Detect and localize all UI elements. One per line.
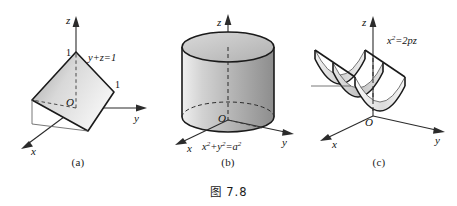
- eq-c-tail: pz: [407, 35, 417, 46]
- y-axis-label-c: y: [434, 134, 440, 146]
- eq-b-equals: =: [225, 141, 232, 152]
- z-axis-label-c: z: [361, 16, 367, 28]
- figure-container: z y x 1 1 O y+z=1 (a: [0, 0, 457, 206]
- subcaption-b: (b): [152, 156, 304, 168]
- y-axis-arrowhead-c: [433, 127, 445, 134]
- subcaption-c: (c): [303, 156, 455, 168]
- figure-caption: 图 7.8: [0, 183, 457, 199]
- eq-c-equals: =2: [395, 35, 408, 46]
- ruling-top-right-c: [365, 50, 405, 77]
- y-axis-label-a: y: [133, 112, 139, 124]
- y-axis-arrowhead-a: [136, 105, 147, 112]
- plane-face-a: [32, 52, 114, 131]
- z-axis-arrowhead-c: [370, 16, 377, 27]
- y-axis-line-c: [373, 116, 436, 130]
- origin-label-b: O: [218, 112, 226, 124]
- parab-sheet-front-fill-c: [355, 77, 405, 111]
- figure-panel-c: z: [303, 0, 455, 180]
- eq-b-plus: +: [210, 141, 217, 152]
- equation-label-a: y+z=1: [87, 52, 116, 63]
- diagram-plane-yz: z y x 1 1 O y+z=1: [2, 0, 154, 160]
- figure-panel-a: z y x 1 1 O y+z=1 (a: [2, 0, 154, 180]
- x-axis-label-b: x: [186, 142, 192, 154]
- z-intercept-label-a: 1: [66, 47, 71, 58]
- diagram-parabolic-cylinder: z: [303, 0, 455, 160]
- z-axis-arrowhead-b: [225, 14, 232, 25]
- origin-label-a: O: [66, 96, 74, 108]
- eq-b-a-sup: 2: [238, 140, 242, 148]
- x-axis-label-c: x: [331, 138, 337, 150]
- z-axis-label-b: z: [216, 16, 222, 28]
- origin-label-c: O: [365, 116, 373, 128]
- z-axis-label-a: z: [65, 14, 71, 26]
- y-intercept-label-a: 1: [115, 79, 120, 90]
- z-axis-arrowhead-a: [73, 16, 80, 27]
- subcaption-a: (a): [2, 156, 154, 168]
- y-axis-arrowhead-b: [282, 129, 294, 136]
- x-axis-arrowhead-b: [175, 138, 187, 145]
- equation-label-b: x2+y2=a2: [201, 140, 242, 152]
- diagram-circular-cylinder: z y x O: [152, 0, 304, 160]
- equation-label-c: x2=2pz: [386, 34, 417, 46]
- figure-panel-b: z y x O: [152, 0, 304, 180]
- y-axis-label-b: y: [281, 136, 287, 148]
- x-axis-arrowhead-c: [320, 134, 332, 141]
